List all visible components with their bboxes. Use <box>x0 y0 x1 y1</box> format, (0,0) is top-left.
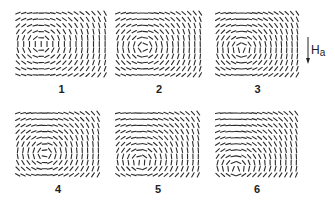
panel-label-6: 6 <box>247 183 267 195</box>
panel-label-2: 2 <box>149 83 169 95</box>
vector-field-panel-5 <box>115 110 201 178</box>
panel-label-5: 5 <box>148 183 168 195</box>
panel-label-3: 3 <box>248 83 268 95</box>
vector-field-panel-1 <box>15 10 108 78</box>
applied-field-label: Ha <box>311 43 325 58</box>
panel-label-4: 4 <box>48 183 68 195</box>
vector-field-panel-3 <box>215 10 300 78</box>
vector-field-panel-6 <box>215 110 299 178</box>
vector-field-panel-4 <box>15 110 101 178</box>
applied-field-arrow-icon <box>306 37 310 64</box>
vector-field-panel-2 <box>115 10 203 78</box>
panel-label-1: 1 <box>52 83 72 95</box>
